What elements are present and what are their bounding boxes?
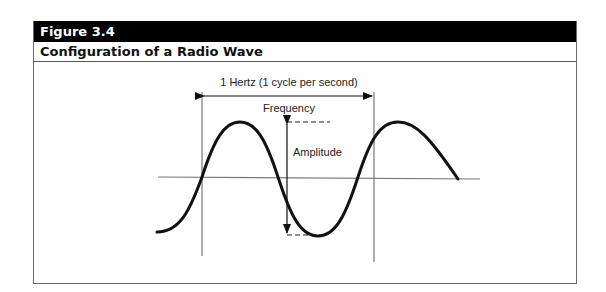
amplitude-label: Amplitude (293, 146, 342, 158)
cycle-label: 1 Hertz (1 cycle per second) (220, 76, 358, 88)
horizontal-axis (158, 177, 480, 179)
frequency-label: Frequency (263, 102, 315, 114)
radio-wave-diagram: 1 Hertz (1 cycle per second) Frequency A… (0, 0, 606, 292)
